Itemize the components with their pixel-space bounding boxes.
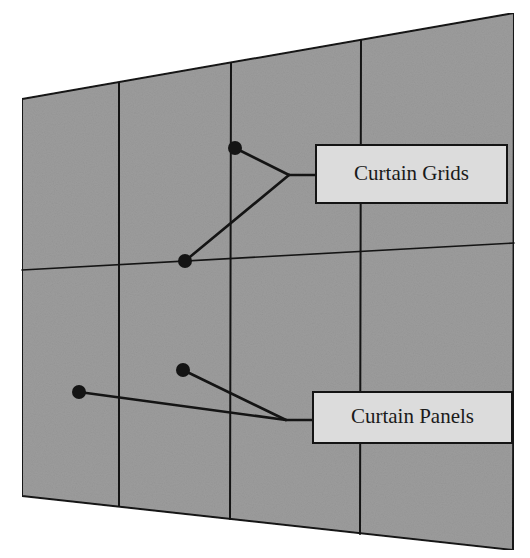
callout-dot-marker (176, 363, 190, 377)
diagram-canvas: Curtain Grids Curtain Panels (0, 0, 530, 558)
vertical-grid-line (230, 63, 231, 519)
callout-dot-marker (228, 141, 242, 155)
vertical-grid-line (360, 40, 361, 534)
curtain-wall-diagram: Curtain Grids Curtain Panels (0, 0, 530, 558)
label-curtain-grids: Curtain Grids (354, 161, 469, 185)
callout-dot-marker (178, 254, 192, 268)
callout-dot-marker (72, 385, 86, 399)
label-curtain-panels: Curtain Panels (351, 404, 474, 428)
curtain-wall-panel-surface (22, 13, 514, 550)
